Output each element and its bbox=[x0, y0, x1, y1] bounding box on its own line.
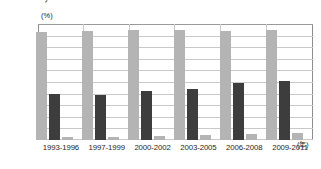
bar-group bbox=[267, 24, 313, 140]
x-axis-tick-label: 2003-2005 bbox=[175, 142, 221, 156]
bar-series-1 bbox=[266, 30, 277, 140]
bar-group-bars bbox=[266, 24, 303, 140]
x-axis-tick-label: 2006-2008 bbox=[221, 142, 267, 156]
bar-group-bars bbox=[128, 24, 165, 140]
x-axis-tick-label: 2000-2002 bbox=[130, 142, 176, 156]
bar-series-2 bbox=[187, 89, 198, 140]
bar-series-2 bbox=[95, 95, 106, 140]
x-axis-tick-label: 1993-1996 bbox=[38, 142, 84, 156]
bar-series-1 bbox=[36, 32, 47, 140]
bar-series-1 bbox=[82, 31, 93, 140]
bar-groups bbox=[38, 24, 313, 140]
bar-group bbox=[84, 24, 130, 140]
bar-group bbox=[175, 24, 221, 140]
bar-group bbox=[38, 24, 84, 140]
bar-series-3 bbox=[292, 133, 303, 140]
bar-series-2 bbox=[233, 83, 244, 141]
bar-series-3 bbox=[200, 135, 211, 140]
bar-series-1 bbox=[174, 30, 185, 140]
bar-series-3 bbox=[62, 137, 73, 140]
bar-group-bars bbox=[36, 24, 73, 140]
x-axis-tick-labels: 1993-19961997-19992000-20022003-20052006… bbox=[38, 142, 313, 156]
cropped-caption-fragment: ﾌﾞ bbox=[44, 0, 84, 4]
x-axis-unit-label: (年) bbox=[297, 140, 309, 150]
bar-series-2 bbox=[279, 81, 290, 140]
bar-group-bars bbox=[82, 24, 119, 140]
bar-series-3 bbox=[108, 137, 119, 140]
bar-chart: ﾌﾞ (%) 100.090.080.070.060.050.040.030.0… bbox=[0, 0, 321, 169]
x-axis-tick-label: 1997-1999 bbox=[84, 142, 130, 156]
bar-group-bars bbox=[220, 24, 257, 140]
bar-series-2 bbox=[49, 94, 60, 140]
bar-group-bars bbox=[174, 24, 211, 140]
plot-area: 100.090.080.070.060.050.040.030.020.010.… bbox=[38, 24, 313, 140]
bar-series-1 bbox=[128, 30, 139, 140]
bar-series-2 bbox=[141, 91, 152, 140]
bar-group bbox=[221, 24, 267, 140]
y-axis-unit-label: (%) bbox=[41, 12, 53, 20]
bar-series-1 bbox=[220, 31, 231, 140]
bar-series-3 bbox=[154, 136, 165, 140]
bar-group bbox=[130, 24, 176, 140]
bar-series-3 bbox=[246, 134, 257, 140]
